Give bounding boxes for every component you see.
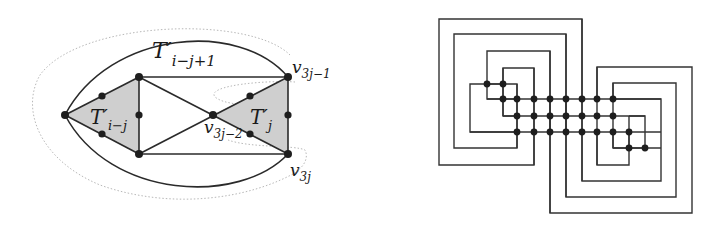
- wire: [439, 19, 582, 165]
- node: [135, 111, 142, 118]
- figure-canvas: T′i−j+1 T′i−j T′j v3j−1 v3j−2 v3j: [0, 0, 701, 232]
- node: [135, 73, 143, 81]
- right-panel-grid-drawing: [439, 19, 692, 213]
- left-panel-graph: T′i−j+1 T′i−j T′j v3j−1 v3j−2 v3j: [33, 29, 331, 199]
- node-v3j-1: [284, 73, 292, 81]
- node: [246, 92, 253, 99]
- wire: [582, 99, 661, 181]
- node: [246, 130, 253, 137]
- node: [284, 111, 291, 118]
- wire: [487, 51, 550, 132]
- label-v3j-minus-1: v3j−1: [292, 57, 331, 81]
- node: [135, 150, 143, 158]
- node-left-apex: [61, 111, 69, 119]
- node: [98, 130, 105, 137]
- wire: [470, 84, 517, 132]
- wire: [550, 67, 692, 213]
- label-v3j: v3j: [290, 160, 311, 184]
- node-v3j: [284, 150, 292, 158]
- label-outer-region: T′i−j+1: [152, 38, 216, 70]
- node: [98, 92, 105, 99]
